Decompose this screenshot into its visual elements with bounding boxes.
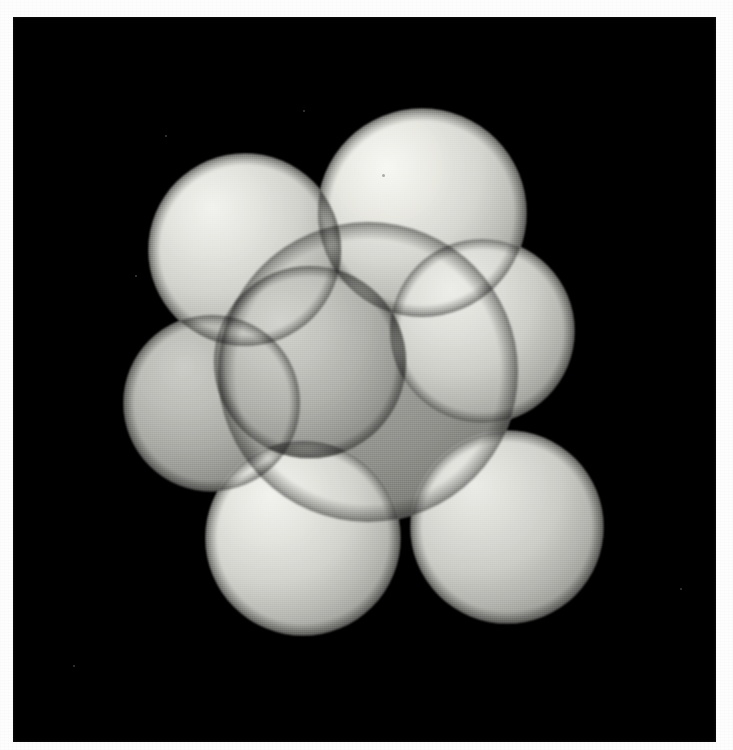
dust-speck [135,275,137,277]
sphere-right-lower-edge [411,431,603,623]
dust-speck [73,665,75,667]
render-canvas [13,17,716,742]
figure-plate [0,0,733,750]
dust-speck [165,135,167,137]
dust-speck [382,174,385,177]
sphere-right-edge [390,239,574,423]
edge-falloff-layer [124,109,603,635]
molecule-render [13,17,716,742]
dust-speck [303,110,305,112]
sphere-bottom-edge [206,441,400,635]
sphere-front-centre-edge [214,266,406,458]
molecule-svg [13,17,716,742]
dust-speck [680,588,682,590]
